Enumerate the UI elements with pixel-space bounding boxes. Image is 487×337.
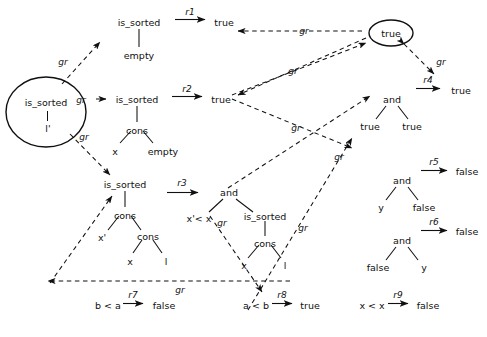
r2-arg-empty: empty [148, 146, 178, 157]
gr-edge-label-11: gr [175, 285, 184, 295]
r3-lhs-root: is_sorted [104, 179, 147, 190]
r5-lhs-and: and [393, 175, 411, 186]
r4-lhs-left: true [360, 121, 380, 132]
r1-lhs-arg: empty [124, 50, 154, 61]
circle-root-is-sorted [6, 77, 86, 147]
gr-edge-label-4: gr [299, 26, 308, 36]
gr-edge-label-5: gr [288, 66, 297, 76]
r9-lhs: x < x [359, 300, 384, 311]
r3-lhs-xprime: x' [98, 232, 106, 243]
r4-rule-label: r4 [423, 75, 432, 85]
r2-rule-label: r2 [182, 84, 191, 94]
r3-rhs-issorted: is_sorted [244, 211, 287, 222]
r2-lhs-root: is_sorted [116, 94, 159, 105]
r7-lhs: b < a [95, 300, 121, 311]
r5-and-right [408, 187, 418, 200]
diagram-stage: is_sortedl'trueis_sortedemptyr1trueis_so… [0, 0, 487, 337]
r5-rule-label: r5 [429, 157, 438, 167]
r6-lhs-left: false [367, 262, 390, 273]
r3-lhs-x: x [127, 256, 133, 267]
circled-root-is-sorted-arg: l' [45, 123, 50, 134]
r3-rhs-and: and [220, 187, 238, 198]
r3-lhs-l: l [165, 256, 168, 267]
r3-rule-label: r3 [177, 178, 186, 188]
r9-rule-label: r9 [393, 290, 402, 300]
circled-root-stem [47, 111, 48, 121]
r6-rhs: false [456, 226, 479, 237]
gr-edge-label-6: gr [291, 123, 300, 133]
r6-lhs-and: and [393, 235, 411, 246]
r4-rhs: true [451, 85, 471, 96]
r3-rhs-cons: cons [254, 238, 276, 249]
gr-edge-label-2: gr [76, 95, 85, 105]
r1-rhs: true [214, 17, 234, 28]
r1-lhs-root: is_sorted [118, 17, 161, 28]
circled-root-is-sorted-label: is_sorted [25, 97, 68, 108]
r5-lhs-left: y [378, 202, 384, 213]
r6-and-right [408, 247, 418, 260]
r2-cons: cons [126, 125, 148, 136]
r2-arg-x: x [112, 146, 118, 157]
r3-lhs-cons2: cons [137, 231, 159, 242]
gr-edge-true-to-r2rhs [238, 38, 366, 95]
r3-rhs-x: x [241, 260, 247, 271]
gr-edge-label-7: gr [334, 152, 343, 162]
gr-edge-label-8: gr [436, 57, 445, 67]
r6-lhs-right: y [421, 262, 427, 273]
r3-rhs-l: l [284, 260, 287, 271]
r4-and-left [376, 106, 386, 119]
circled-root-true-label: true [381, 28, 401, 39]
r1-rule-label: r1 [185, 7, 194, 17]
r2-rhs: true [211, 94, 231, 105]
r3-and-left [209, 199, 223, 212]
r7-rule-label: r7 [128, 290, 137, 300]
gr-edge-label-3: gr [79, 132, 88, 142]
r3-cons2-left [133, 240, 142, 253]
gr-edge-r3-to-true [232, 43, 366, 95]
gr-edge-r3and-to-r4 [228, 96, 370, 188]
r4-lhs-right: true [402, 121, 422, 132]
r7-rhs: false [153, 300, 176, 311]
r6-rule-label: r6 [429, 217, 438, 227]
diagram-canvas [0, 0, 487, 337]
gr-edge-label-1: gr [58, 57, 67, 67]
r8-lhs: a < b [243, 300, 269, 311]
r8-rule-label: r8 [277, 290, 286, 300]
r6-and-left [386, 247, 396, 260]
r9-rhs: false [417, 300, 440, 311]
r3-lhs-cons1: cons [114, 210, 136, 221]
gr-edge-true-r4rhs [404, 44, 434, 74]
r3-rhs-lt: x'< x [187, 213, 212, 224]
r4-and-right [398, 106, 408, 119]
gr-edge-label-9: gr [217, 218, 226, 228]
r5-lhs-right: false [413, 202, 436, 213]
gr-edge-root-to-r3 [70, 134, 110, 175]
r8-rhs: true [300, 300, 320, 311]
r3-cons2-right [153, 240, 162, 253]
r5-and-left [386, 187, 396, 200]
gr-edge-label-10: gr [298, 223, 307, 233]
r4-lhs-and: and [383, 94, 401, 105]
r5-rhs: false [456, 166, 479, 177]
